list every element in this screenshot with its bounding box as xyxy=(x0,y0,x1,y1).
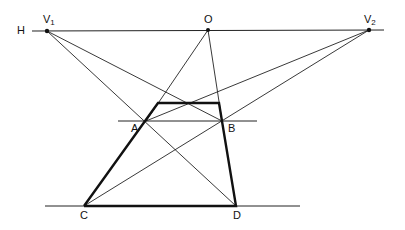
v2-to-c-line xyxy=(84,30,369,206)
v1-to-b-line xyxy=(47,31,222,121)
label-o: O xyxy=(204,14,213,25)
v1-point xyxy=(45,29,49,33)
label-v1-sub: 1 xyxy=(50,18,54,27)
label-v2-sub: 2 xyxy=(371,18,375,27)
label-v2: V2 xyxy=(364,14,376,27)
label-v1: V1 xyxy=(43,14,55,27)
label-d: D xyxy=(233,210,241,221)
label-h: H xyxy=(17,25,25,36)
trapezoid-outline xyxy=(84,103,236,206)
label-a: A xyxy=(131,123,138,134)
perspective-diagram xyxy=(0,0,405,230)
o-point xyxy=(206,28,210,32)
label-b: B xyxy=(228,123,235,134)
v1-to-d-line xyxy=(47,31,236,206)
v2-to-a-line xyxy=(146,30,369,121)
label-c: C xyxy=(80,210,88,221)
v2-point xyxy=(367,28,371,32)
